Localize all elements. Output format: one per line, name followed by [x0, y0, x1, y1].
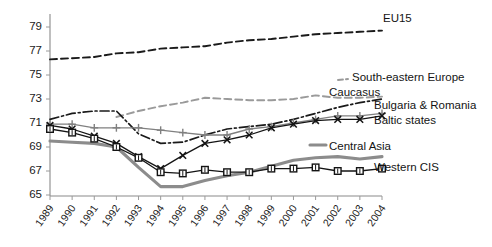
- y-tick-label: 67: [29, 164, 42, 176]
- series-label-central-asia: Central Asia: [329, 140, 392, 152]
- y-tick-label: 77: [29, 44, 42, 56]
- y-tick-label: 71: [29, 116, 42, 128]
- y-tick-label: 79: [29, 20, 42, 32]
- series-label-south-eastern-europe: South-eastern Europe: [352, 71, 465, 83]
- y-tick-label: 73: [29, 92, 42, 104]
- y-tick-label: 75: [29, 68, 42, 80]
- series-label-western-cis: Western CIS: [374, 161, 439, 173]
- leader-line: [338, 79, 348, 80]
- life-expectancy-line-chart: 7977757371696765 19891990199119921993199…: [0, 0, 492, 247]
- chart-canvas: 7977757371696765 19891990199119921993199…: [0, 0, 492, 247]
- series-label-eu15: EU15: [383, 12, 412, 24]
- series-label-baltic-states: Baltic states: [374, 114, 436, 126]
- series-label-caucasus: Caucasus: [329, 86, 380, 98]
- y-tick-label: 65: [29, 188, 42, 200]
- series-label-bulgaria-romania: Bulgaria & Romania: [374, 99, 477, 111]
- y-tick-label: 69: [29, 140, 42, 152]
